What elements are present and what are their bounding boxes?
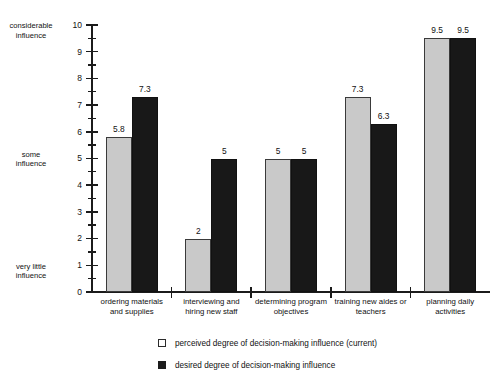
y-tick-minor — [88, 91, 96, 92]
legend-item-label: desired degree of decision-making influe… — [175, 361, 335, 370]
bar-desired — [211, 159, 237, 293]
y-tick-minor — [88, 251, 96, 252]
category-label-line: interviewing and — [183, 297, 239, 306]
y-tick-label: 4 — [64, 181, 82, 190]
bar-desired — [371, 124, 397, 292]
y-annotation-very-little-influence: very little influence — [0, 262, 62, 281]
open-square-swatch — [158, 339, 166, 347]
y-tick-major — [86, 211, 98, 213]
y-tick-major — [86, 24, 98, 26]
category-label-line: hiring new staff — [185, 307, 237, 316]
y-tick-major — [86, 131, 98, 133]
y-annotation-considerable-influence: considerable influence — [0, 21, 62, 40]
category-label-line: ordering materials — [101, 297, 163, 306]
y-annotation-some-line1: some — [22, 150, 41, 159]
y-annotation-verylittle-line1: very little — [16, 262, 46, 271]
y-tick-label: 8 — [64, 74, 82, 83]
y-tick-label: 10 — [64, 21, 82, 30]
x-axis-category-label: training new aides orteachers — [325, 297, 417, 317]
bar-value-label: 7.3 — [124, 85, 166, 93]
bar-value-label: 6.3 — [363, 112, 405, 120]
legend-item: perceived degree of decision-making infl… — [158, 334, 488, 352]
y-tick-label: 7 — [64, 101, 82, 110]
bar-value-label: 5 — [283, 147, 325, 155]
y-tick-major — [86, 291, 98, 293]
y-annotation-considerable-line2: influence — [16, 31, 46, 40]
category-label-line: planning daily — [426, 297, 474, 306]
bar-perceived — [106, 137, 132, 292]
legend-item-label: perceived degree of decision-making infl… — [175, 339, 377, 348]
category-label-line: and supplies — [110, 307, 154, 316]
y-tick-minor — [88, 118, 96, 119]
y-tick-minor — [88, 38, 96, 39]
category-label-line: objectives — [274, 307, 309, 316]
bar-value-label: 9.5 — [442, 26, 484, 34]
y-tick-major — [86, 51, 98, 53]
y-tick-minor — [88, 224, 96, 225]
category-label-line: teachers — [356, 307, 386, 316]
y-tick-label: 6 — [64, 128, 82, 137]
y-tick-label: 9 — [64, 48, 82, 57]
y-tick-major — [86, 158, 98, 160]
y-tick-label: 3 — [64, 208, 82, 217]
y-tick-minor — [88, 198, 96, 199]
y-tick-label: 2 — [64, 234, 82, 243]
bar-perceived — [345, 97, 371, 292]
x-axis-category-label: determining programobjectives — [245, 297, 337, 317]
y-tick-major — [86, 78, 98, 80]
y-tick-label: 1 — [64, 261, 82, 270]
bar-perceived — [265, 159, 291, 293]
y-tick-label: 5 — [64, 154, 82, 163]
bar-value-label: 5 — [203, 147, 245, 155]
category-label-line: determining program — [255, 297, 327, 306]
y-tick-minor — [88, 278, 96, 279]
bar-desired — [291, 159, 317, 293]
y-tick-major — [86, 238, 98, 240]
y-tick-label: 0 — [64, 288, 82, 297]
y-tick-major — [86, 104, 98, 106]
x-axis-category-label: ordering materialsand supplies — [86, 297, 178, 317]
y-annotation-some-influence: some influence — [0, 150, 62, 169]
legend-item: desired degree of decision-making influe… — [158, 356, 488, 374]
y-annotation-some-line2: influence — [16, 159, 46, 168]
y-tick-minor — [88, 64, 96, 65]
category-label-line: activities — [435, 307, 465, 316]
filled-square-swatch — [158, 361, 166, 369]
plot-area: 012345678910 considerable influence some… — [0, 0, 498, 320]
bar-perceived — [424, 38, 450, 292]
bar-perceived — [185, 239, 211, 292]
category-label-line: training new aides or — [335, 297, 407, 306]
y-tick-minor — [88, 144, 96, 145]
bar-value-label: 7.3 — [337, 85, 379, 93]
x-axis-category-label: interviewing andhiring new staff — [166, 297, 258, 317]
bar-chart-figure: 012345678910 considerable influence some… — [0, 0, 498, 389]
y-tick-major — [86, 265, 98, 267]
y-tick-minor — [88, 171, 96, 172]
y-tick-major — [86, 184, 98, 186]
bar-desired — [450, 38, 476, 292]
bar-desired — [132, 97, 158, 292]
y-annotation-considerable-line1: considerable — [9, 21, 52, 30]
y-annotation-verylittle-line2: influence — [16, 271, 46, 280]
x-axis-category-label: planning dailyactivities — [404, 297, 496, 317]
chart-legend: perceived degree of decision-making infl… — [158, 334, 488, 378]
